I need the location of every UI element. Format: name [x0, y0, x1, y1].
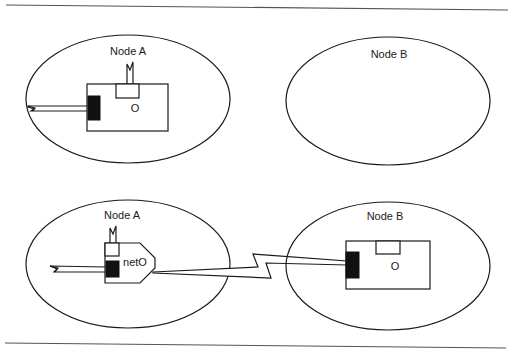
port-box	[105, 243, 119, 256]
bottom-panel: Node A netO Node B	[26, 200, 490, 330]
incoming-wire	[50, 266, 106, 272]
lightning-link-icon	[153, 254, 347, 278]
node-b-label: Node B	[371, 48, 408, 60]
node-a-label: Node A	[110, 45, 147, 57]
top-panel: Node A O Node B	[26, 35, 490, 165]
bottom-node-a: Node A netO	[26, 200, 230, 328]
top-node-b: Node B	[286, 37, 490, 165]
object-label: O	[391, 260, 400, 272]
bottom-node-b: Node B O	[286, 202, 490, 330]
node-b-label: Node B	[367, 210, 404, 222]
diagram-canvas: Node A O Node B Node A	[0, 0, 527, 359]
incoming-wire	[28, 106, 88, 111]
port-box	[116, 84, 139, 98]
bottom-rule	[5, 343, 506, 348]
antenna-icon	[127, 62, 133, 84]
antenna-icon	[110, 226, 116, 243]
port-box	[376, 241, 400, 254]
top-rule	[6, 5, 508, 10]
proxy-label: netO	[123, 256, 147, 268]
node-a-label: Node A	[104, 209, 141, 221]
object-label: O	[131, 102, 140, 114]
attachment-block	[106, 261, 119, 277]
attachment-block	[346, 252, 359, 278]
top-node-a: Node A O	[26, 35, 230, 163]
attachment-block	[88, 96, 100, 120]
